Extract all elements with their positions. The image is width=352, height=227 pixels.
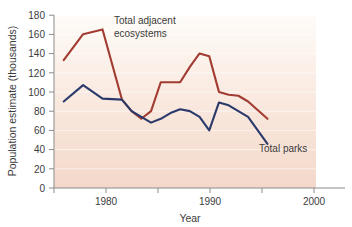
annotation-line-2: ecosystems: [114, 28, 167, 39]
plot-area-background: [54, 15, 316, 188]
y-tick-label: 180: [28, 10, 45, 21]
annotation-line-1: Total parks: [259, 143, 307, 154]
annotation-total-parks: Total parks: [259, 143, 307, 154]
x-axis-label: Year: [179, 212, 201, 224]
y-axis-ticks: [49, 15, 54, 188]
y-axis-label: Population estimate (thousands): [6, 26, 18, 177]
x-tick-label: 1980: [95, 196, 118, 207]
x-tick-label: 1990: [199, 196, 222, 207]
x-axis-ticks: [54, 188, 314, 193]
y-tick-label: 0: [39, 183, 45, 194]
y-axis-tick-labels: 180 160 140 120 100 80 60 40 20 0: [28, 10, 45, 194]
y-tick-label: 60: [34, 125, 46, 136]
chart-canvas: 180 160 140 120 100 80 60 40 20 0 1980 1…: [0, 0, 352, 227]
y-tick-label: 140: [28, 48, 45, 59]
x-tick-label: 2000: [303, 196, 326, 207]
y-tick-label: 100: [28, 87, 45, 98]
x-axis-tick-labels: 1980 1990 2000: [95, 196, 326, 207]
y-tick-label: 80: [34, 106, 46, 117]
y-tick-label: 40: [34, 144, 46, 155]
y-tick-label: 120: [28, 68, 45, 79]
y-tick-label: 160: [28, 29, 45, 40]
annotation-line-1: Total adjacent: [114, 15, 176, 26]
population-estimate-line-chart: 180 160 140 120 100 80 60 40 20 0 1980 1…: [0, 0, 352, 227]
y-tick-label: 20: [34, 164, 46, 175]
